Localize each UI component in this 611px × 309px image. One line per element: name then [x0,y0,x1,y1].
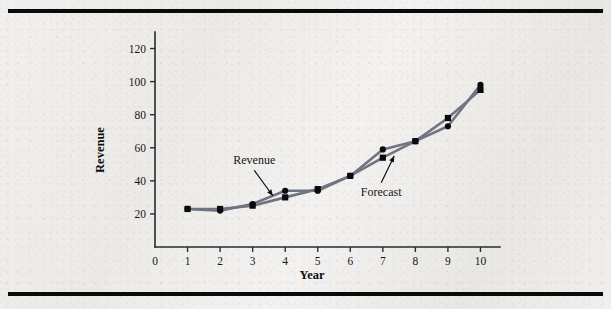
y-tick-label: 60 [135,142,147,154]
x-tick-label: 6 [347,255,353,267]
x-tick-label: 3 [250,255,256,267]
x-tick-label: 0 [152,255,158,267]
y-tick-label: 20 [135,208,147,220]
marker-forecast [445,115,451,121]
series-line-forecast [188,90,481,209]
x-tick-label: 9 [445,255,451,267]
x-axis-title: Year [300,268,325,282]
x-tick-label: 5 [315,255,321,267]
y-tick-label: 120 [129,43,147,55]
y-tick-label: 80 [135,109,147,121]
x-tick-label: 4 [282,255,288,267]
marker-revenue [282,188,288,194]
x-tick-label: 2 [217,255,223,267]
y-axis-tick-labels: 20406080100120 [129,43,147,220]
annotation-label: Forecast [361,185,402,199]
marker-forecast [184,206,190,212]
marker-forecast [282,194,288,200]
marker-forecast [347,173,353,179]
axis-lines [155,32,500,247]
series-line-revenue [188,85,481,211]
marker-forecast [250,203,256,209]
figure-container: 20406080100120 012345678910 RevenueForec… [0,0,611,309]
marker-forecast [412,138,418,144]
x-tick-label: 10 [475,255,487,267]
series-markers [184,82,483,214]
y-axis-title: Revenue [93,127,107,173]
y-tick-label: 100 [129,76,147,88]
revenue-forecast-chart: 20406080100120 012345678910 RevenueForec… [0,0,611,309]
marker-forecast [380,155,386,161]
x-tick-label: 8 [413,255,419,267]
marker-revenue [445,123,451,129]
series-lines [188,85,481,211]
annotation-arrowhead [267,189,273,195]
x-axis-tick-labels: 012345678910 [152,255,486,267]
marker-revenue [380,146,386,152]
marker-forecast [315,186,321,192]
x-tick-label: 1 [185,255,191,267]
marker-forecast [477,87,483,93]
marker-forecast [217,206,223,212]
annotation-label: Revenue [233,153,275,167]
y-tick-label: 40 [135,175,147,187]
x-tick-label: 7 [380,255,386,267]
